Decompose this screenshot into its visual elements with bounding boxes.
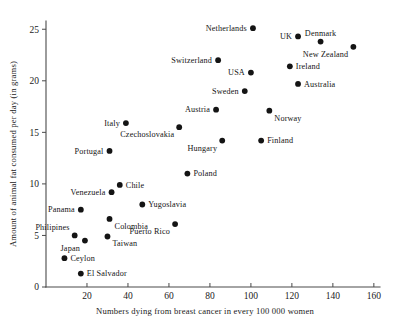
data-point-group[interactable]: Ceylon [62, 254, 95, 263]
data-point-group[interactable]: Philipines [35, 223, 77, 238]
data-point-label: USA [228, 68, 245, 77]
data-point-marker[interactable] [250, 25, 256, 31]
data-point-marker[interactable] [72, 233, 78, 239]
data-point-label: Italy [104, 119, 121, 128]
scatter-plot-canvas: 0510152025 20406080100120140160 Netherla… [0, 0, 393, 327]
data-point-label: Poland [193, 169, 217, 178]
data-point-label: New Zealand [303, 50, 349, 59]
data-point-marker[interactable] [78, 271, 84, 277]
data-point-label: Venezuela [71, 188, 106, 197]
y-tick-label: 15 [30, 128, 40, 138]
data-point-label: Portugal [75, 147, 105, 156]
data-point-group[interactable]: Chile [117, 181, 145, 190]
data-point-label: Taiwan [112, 239, 137, 248]
data-point-label: UK [280, 32, 292, 41]
data-point-group[interactable]: Denmark [305, 29, 337, 45]
x-tick-label: 160 [367, 291, 382, 301]
y-tick-label: 10 [30, 179, 40, 189]
data-point-marker[interactable] [295, 34, 301, 40]
data-point-marker[interactable] [123, 120, 129, 126]
data-point-marker[interactable] [62, 255, 68, 261]
data-point-group[interactable]: New Zealand [303, 44, 356, 59]
data-point-marker[interactable] [350, 44, 356, 50]
data-point-marker[interactable] [176, 124, 182, 130]
y-axis-title: Amount of animal fat consumed per day (i… [8, 61, 18, 247]
data-point-marker[interactable] [266, 108, 272, 114]
data-point-label: Switzerland [171, 56, 212, 65]
data-point-group[interactable]: Finland [258, 136, 293, 145]
data-point-group[interactable]: Netherlands [206, 24, 256, 33]
data-point-marker[interactable] [219, 138, 225, 144]
data-point-marker[interactable] [117, 182, 123, 188]
data-point-label: Denmark [305, 29, 337, 38]
x-axis-ticks: 20406080100120140160 [82, 283, 381, 301]
data-point-group[interactable]: Hungary [188, 138, 226, 153]
data-point-group[interactable]: Czechoslovakia [120, 124, 182, 139]
data-point-group[interactable]: Italy [104, 119, 129, 128]
data-point-marker[interactable] [215, 57, 221, 63]
data-point-label: El Salvador [87, 269, 127, 278]
data-point-marker[interactable] [172, 221, 178, 227]
data-point-group[interactable]: Yugoslavia [139, 200, 186, 209]
x-tick-label: 40 [123, 291, 133, 301]
data-point-group[interactable]: Portugal [75, 147, 113, 156]
data-point-label: Hungary [188, 144, 218, 153]
x-tick-label: 140 [326, 291, 341, 301]
data-point-label: Puerto Rico [130, 227, 171, 236]
data-point-label: Netherlands [206, 24, 247, 33]
data-point-label: Japan [61, 244, 80, 253]
data-point-label: Panama [48, 205, 75, 214]
y-tick-label: 25 [30, 25, 40, 35]
data-point-group[interactable]: Sweden [212, 87, 248, 96]
x-tick-label: 20 [82, 291, 92, 301]
data-point-group[interactable]: UK [280, 32, 301, 41]
data-point-marker[interactable] [78, 207, 84, 213]
data-point-label: Norway [274, 114, 302, 123]
data-point-marker[interactable] [295, 81, 301, 87]
data-point-group[interactable]: Austria [185, 105, 219, 114]
data-point-label: Chile [126, 181, 145, 190]
data-point-label: Sweden [212, 87, 239, 96]
x-axis-title: Numbers dying from breast cancer in ever… [96, 306, 314, 316]
data-point-marker[interactable] [318, 39, 324, 45]
data-point-marker[interactable] [248, 70, 254, 76]
data-point-label: Ceylon [70, 254, 95, 263]
data-point-label: Yugoslavia [148, 200, 186, 209]
y-tick-label: 20 [30, 76, 40, 86]
data-point-marker[interactable] [184, 171, 190, 177]
data-point-marker[interactable] [107, 216, 113, 222]
data-point-label: Austria [185, 105, 210, 114]
data-point-label: Ireland [296, 62, 320, 71]
data-point-group[interactable]: El Salvador [78, 269, 127, 278]
data-point-group[interactable]: USA [228, 68, 254, 77]
data-point-marker[interactable] [242, 88, 248, 94]
data-point-group[interactable]: Switzerland [171, 56, 221, 65]
x-tick-label: 120 [285, 291, 300, 301]
x-tick-label: 60 [164, 291, 174, 301]
data-point-marker[interactable] [258, 138, 264, 144]
y-axis-ticks: 0510152025 [30, 25, 47, 293]
data-point-group[interactable]: Ireland [287, 62, 320, 71]
data-point-label: Australia [304, 80, 336, 89]
data-point-label: Czechoslovakia [120, 130, 174, 139]
data-point-group[interactable]: Japan [61, 238, 88, 253]
data-point-marker[interactable] [107, 148, 113, 154]
data-point-marker[interactable] [213, 107, 219, 113]
data-point-marker[interactable] [139, 202, 145, 208]
data-point-label: Philipines [35, 223, 69, 232]
data-point-group[interactable]: Venezuela [71, 188, 115, 197]
data-points-layer: NetherlandsUKDenmarkNew ZealandSwitzerla… [35, 24, 356, 278]
data-point-marker[interactable] [82, 238, 88, 244]
data-point-group[interactable]: Norway [266, 108, 302, 123]
data-point-marker[interactable] [105, 234, 111, 240]
data-point-group[interactable]: Panama [48, 205, 84, 214]
data-point-label: Finland [267, 136, 293, 145]
data-point-group[interactable]: Australia [295, 80, 335, 89]
data-point-marker[interactable] [109, 189, 115, 195]
data-point-marker[interactable] [287, 63, 293, 69]
x-tick-label: 100 [244, 291, 259, 301]
data-point-group[interactable]: Poland [184, 169, 217, 178]
x-tick-label: 80 [205, 291, 215, 301]
scatter-chart-figure: 0510152025 20406080100120140160 Netherla… [0, 0, 393, 327]
y-tick-label: 0 [34, 282, 39, 292]
